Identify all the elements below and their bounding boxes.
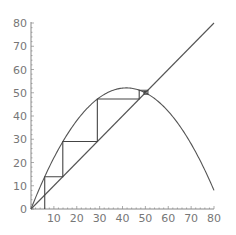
x-tick-label: 10 xyxy=(47,212,61,225)
identity-line xyxy=(31,23,214,209)
y-tick-label: 40 xyxy=(13,110,27,123)
x-tick-label: 80 xyxy=(207,212,221,225)
y-tick-label: 20 xyxy=(13,157,27,170)
x-tick-label: 20 xyxy=(70,212,84,225)
x-tick-label: 70 xyxy=(184,212,198,225)
x-tick-label: 30 xyxy=(93,212,107,225)
parabola-curve xyxy=(31,88,214,209)
y-tick-label: 0 xyxy=(20,203,27,216)
y-tick-label: 30 xyxy=(13,133,27,146)
y-tick-label: 50 xyxy=(13,87,27,100)
x-tick-label: 40 xyxy=(116,212,130,225)
x-tick-label: 50 xyxy=(138,212,152,225)
y-tick-label: 60 xyxy=(13,64,27,77)
x-tick-label: 60 xyxy=(161,212,175,225)
cobweb-path xyxy=(45,90,148,209)
y-tick-label: 80 xyxy=(13,17,27,30)
y-tick-label: 70 xyxy=(13,40,27,53)
y-tick-label: 10 xyxy=(13,180,27,193)
cobweb-chart: 102030405060708001020304050607080 xyxy=(0,0,236,235)
